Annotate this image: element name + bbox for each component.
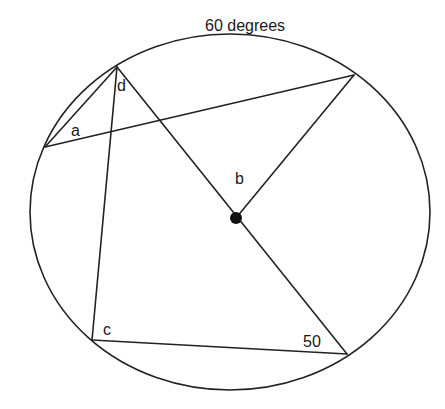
chord-a-e — [45, 75, 354, 147]
chord-d-a — [45, 67, 117, 147]
radius-o-e — [236, 75, 354, 218]
arc-label-60-degrees: 60 degrees — [205, 17, 285, 34]
angle-label-50: 50 — [303, 333, 321, 350]
diameter-d-f — [117, 67, 347, 354]
circle-outline — [30, 34, 430, 390]
chord-d-c — [92, 67, 117, 340]
center-point — [230, 212, 242, 224]
geometry-diagram: 60 degrees a b c d 50 — [0, 0, 445, 409]
angle-label-d: d — [117, 77, 126, 94]
diagram-canvas: 60 degrees a b c d 50 — [0, 0, 445, 409]
angle-label-b: b — [235, 170, 244, 187]
angle-label-c: c — [103, 321, 111, 338]
angle-label-a: a — [71, 122, 80, 139]
